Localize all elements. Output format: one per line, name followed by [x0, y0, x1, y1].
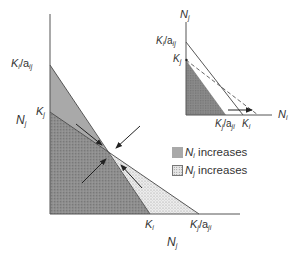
- inset-kj-point: [185, 59, 187, 61]
- main-y-tick-ki-aij: Ki/aij: [11, 58, 32, 70]
- arrow-icon: [116, 126, 140, 148]
- gray-swatch-icon: [172, 147, 183, 158]
- legend-item-ni-increases: Ni increases: [172, 146, 247, 159]
- main-y-tick-kj: Kj: [36, 106, 45, 118]
- inset-y-tick-kj: Kj: [173, 54, 181, 65]
- inset-y-tick-ki-aij: Ki/aij: [156, 36, 176, 47]
- main-x-tick-ki: Ki: [145, 219, 154, 231]
- main-x-tick-kj-aji: Kj/aji: [190, 219, 211, 231]
- legend-label: Nj increases: [185, 164, 247, 177]
- both-increase-region: [50, 112, 150, 214]
- legend-item-nj-increases: Nj increases: [172, 164, 247, 177]
- inset-x-axis-label: Ni: [278, 109, 288, 121]
- main-y-axis-label: Nj: [16, 114, 26, 127]
- competition-isocline-diagram: [0, 0, 303, 255]
- stipple-swatch-icon: [172, 165, 183, 176]
- inset-x-tick-kj-aji: Kj/aji: [215, 119, 235, 130]
- inset-x-tick-ki: Ki: [242, 119, 250, 130]
- inset-y-axis-label: Nj: [180, 9, 190, 21]
- main-x-axis-label: Nj: [167, 236, 177, 249]
- legend-label: Ni increases: [185, 146, 247, 159]
